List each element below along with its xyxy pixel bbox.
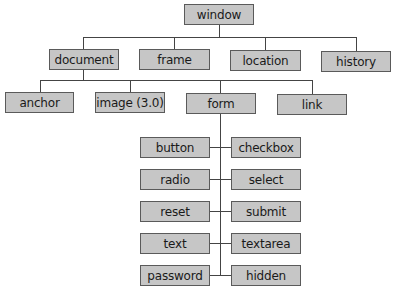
node-image: image (3.0): [95, 92, 165, 113]
node-link: link: [277, 94, 347, 115]
node-location: location: [230, 50, 301, 71]
node-form: form: [186, 93, 256, 114]
node-reset: reset: [140, 201, 210, 222]
node-submit: submit: [231, 201, 301, 222]
node-password: password: [140, 265, 210, 286]
node-document: document: [49, 49, 119, 70]
node-text: text: [140, 233, 210, 254]
node-textarea: textarea: [231, 233, 301, 254]
node-button: button: [140, 137, 210, 158]
node-checkbox: checkbox: [231, 137, 301, 158]
node-window: window: [184, 4, 254, 25]
object-hierarchy-diagram: window document frame location history a…: [0, 0, 394, 290]
node-frame: frame: [139, 49, 210, 70]
node-hidden: hidden: [231, 265, 301, 286]
node-select: select: [231, 169, 301, 190]
node-anchor: anchor: [5, 92, 74, 113]
node-radio: radio: [140, 169, 210, 190]
node-history: history: [321, 51, 391, 72]
